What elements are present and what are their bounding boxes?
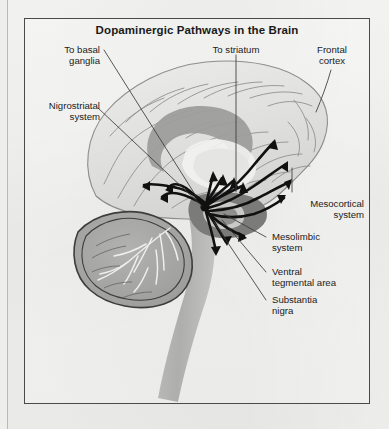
label-mesolimbic-system: Mesolimbic system	[272, 231, 364, 254]
page-background: Dopaminergic Pathways in the Brain	[0, 0, 389, 429]
label-frontal-cortex: Frontal cortex	[304, 44, 360, 67]
label-mesocortical-system: Mesocortical system	[278, 198, 364, 221]
cerebellum	[74, 212, 192, 308]
label-substantia-nigra: Substantia nigra	[272, 294, 364, 317]
label-ventral-tegmental-area: Ventral tegmental area	[272, 266, 364, 289]
label-to-striatum: To striatum	[196, 44, 276, 55]
label-nigrostriatal-system: Nigrostriatal system	[12, 100, 100, 123]
label-to-basal-ganglia: To basal ganglia	[20, 44, 100, 67]
